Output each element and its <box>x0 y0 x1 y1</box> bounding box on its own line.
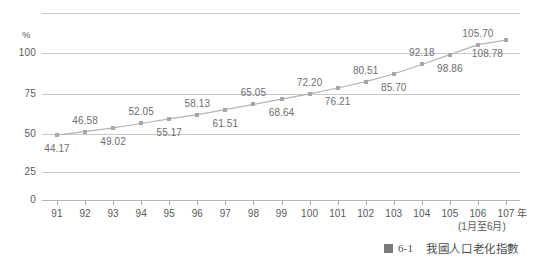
x-axis-tick <box>113 200 114 205</box>
x-axis-tick-label: 100 <box>301 208 318 219</box>
data-point-value-label: 55.17 <box>156 127 182 138</box>
x-axis-tick <box>394 200 395 205</box>
data-point-value-label: 72.20 <box>297 77 323 88</box>
x-axis-tick <box>197 200 198 205</box>
x-axis-tick-label: 107 <box>498 208 515 219</box>
data-point-marker <box>251 102 255 106</box>
figure-population-aging-index: % 100 75 50 25 0 44.1746.5849.0252.0555.… <box>0 0 541 266</box>
data-point-marker <box>308 92 312 96</box>
data-point-value-label: 68.64 <box>269 107 295 118</box>
x-axis-tick-label: 99 <box>276 208 287 219</box>
data-point-value-label: 52.05 <box>128 106 154 117</box>
x-axis-tick-label: 97 <box>220 208 231 219</box>
data-point-value-label: 61.51 <box>213 118 239 129</box>
data-point-value-label: 58.13 <box>185 98 211 109</box>
x-axis-tick <box>478 200 479 205</box>
data-point-value-label: 44.17 <box>44 143 70 154</box>
x-axis-unit-label: 年 <box>517 208 527 219</box>
x-axis-tick <box>141 200 142 205</box>
x-axis-tick-label: 103 <box>385 208 402 219</box>
x-axis-tick <box>85 200 86 205</box>
data-point-marker <box>55 133 59 137</box>
data-point-marker <box>167 117 171 121</box>
data-point-marker <box>364 80 368 84</box>
x-axis-tick <box>57 200 58 205</box>
x-axis-tick <box>282 200 283 205</box>
x-axis-tick <box>450 200 451 205</box>
data-point-marker <box>336 86 340 90</box>
x-axis-note-label: (1月至6月) <box>458 221 506 232</box>
x-axis-tick-label: 102 <box>357 208 374 219</box>
x-axis-tick-label: 94 <box>136 208 147 219</box>
figure-caption-text: 我國人口老化指數 <box>426 240 519 256</box>
data-point-marker <box>420 62 424 66</box>
data-point-value-label: 92.18 <box>409 47 435 58</box>
data-point-value-label: 65.05 <box>241 87 267 98</box>
x-axis-tick-label: 98 <box>248 208 259 219</box>
x-axis-tick-label: 95 <box>164 208 175 219</box>
data-point-value-label: 76.21 <box>325 96 351 107</box>
chart-plot-area: % 100 75 50 25 0 44.1746.5849.0252.0555.… <box>0 0 541 240</box>
x-axis-tick-label: 91 <box>51 208 62 219</box>
x-axis-tick-label: 96 <box>192 208 203 219</box>
x-axis-tick-label: 105 <box>441 208 458 219</box>
x-axis-tick-label: 104 <box>413 208 430 219</box>
data-point-marker <box>448 53 452 57</box>
data-point-value-label: 80.51 <box>353 65 379 76</box>
data-point-value-label: 49.02 <box>100 136 126 147</box>
data-point-marker <box>223 108 227 112</box>
data-point-value-label: 85.70 <box>381 82 407 93</box>
x-axis-tick <box>338 200 339 205</box>
data-point-marker <box>111 126 115 130</box>
data-point-value-label: 98.86 <box>437 63 463 74</box>
data-point-marker <box>280 97 284 101</box>
data-point-marker <box>83 130 87 134</box>
data-point-value-label: 105.70 <box>462 28 493 39</box>
x-axis-tick <box>310 200 311 205</box>
data-point-marker <box>476 43 480 47</box>
data-point-marker <box>195 113 199 117</box>
x-axis-tick-label: 101 <box>329 208 346 219</box>
x-axis-tick-label: 106 <box>469 208 486 219</box>
x-axis-tick <box>366 200 367 205</box>
x-axis-tick <box>253 200 254 205</box>
figure-mark-icon <box>384 244 393 253</box>
figure-caption: 6-1 我國人口老化指數 <box>0 238 541 258</box>
data-point-marker <box>392 72 396 76</box>
x-axis-tick <box>506 200 507 205</box>
x-axis-tick <box>169 200 170 205</box>
x-axis-tick-label: 93 <box>107 208 118 219</box>
data-point-marker <box>504 38 508 42</box>
x-axis-tick <box>422 200 423 205</box>
x-axis-tick <box>225 200 226 205</box>
x-axis-tick-label: 92 <box>79 208 90 219</box>
data-point-value-label: 108.78 <box>472 48 503 59</box>
data-point-value-label: 46.58 <box>72 115 98 126</box>
figure-caption-number: 6-1 <box>398 242 413 254</box>
data-point-marker <box>139 121 143 125</box>
